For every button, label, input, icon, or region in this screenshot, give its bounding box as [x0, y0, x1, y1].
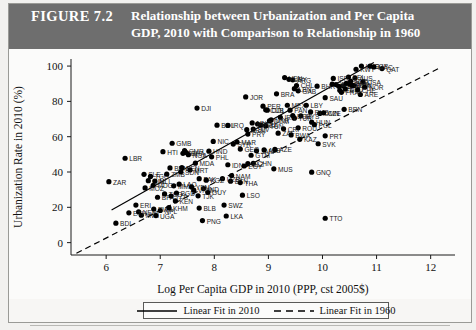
scatter-point-marker — [148, 174, 153, 179]
scatter-point-label: ZAR — [113, 179, 126, 186]
scatter-point: SAU — [323, 95, 344, 102]
scatter-point-marker — [142, 185, 147, 190]
y-axis-tick-label: 80 — [52, 95, 64, 107]
scatter-point-marker — [323, 95, 328, 100]
scatter-point-label: AZE — [279, 146, 292, 153]
x-axis-tick-label: 12 — [425, 261, 436, 273]
scatter-point: EGY — [241, 163, 262, 170]
scatter-point-marker — [271, 166, 276, 171]
y-axis-tick-label: 20 — [52, 201, 64, 213]
scatter-point: SWZ — [221, 202, 242, 209]
scatter-point: GTM — [249, 152, 270, 159]
figure-container: FIGURE 7.2 Relationship between Urbaniza… — [0, 0, 476, 330]
scatter-point-label: LSO — [247, 192, 260, 199]
scatter-point-marker — [153, 213, 158, 218]
scatter-point-marker — [178, 169, 183, 174]
scatter-point-marker — [355, 87, 360, 92]
scatter-point-marker — [285, 103, 290, 108]
scatter-point-label: UZB — [227, 176, 241, 183]
scatter-point-label: SVK — [322, 141, 336, 148]
scatter-point-marker — [241, 163, 246, 168]
scatter-point-label: KAZ — [304, 136, 317, 143]
scatter-point-label: MDG — [157, 182, 172, 189]
scatter-point: LSO — [240, 192, 260, 199]
scatter-point-marker — [197, 176, 202, 181]
x-axis-tick-label: 7 — [157, 261, 163, 273]
scatter-point: CUB — [263, 107, 284, 114]
scatter-point-marker — [206, 149, 211, 154]
scatter-point-marker — [151, 206, 156, 211]
scatter-point-label: PNG — [207, 218, 221, 225]
scatter-point-label: HND — [213, 148, 228, 155]
scatter-point-marker — [126, 210, 131, 215]
scatter-point-label: HTI — [167, 149, 178, 156]
scatter-point-marker — [244, 127, 249, 132]
scatter-point-label: MAC — [378, 64, 393, 71]
scatter-point-label: ISR — [338, 75, 349, 82]
scatter-point-marker — [353, 67, 358, 72]
scatter-point-marker — [225, 123, 230, 128]
legend-entry: Linear Fit in 1960 — [273, 305, 396, 316]
scatter-point-marker — [197, 205, 202, 210]
scatter-point: PRT — [323, 133, 343, 140]
scatter-point-marker — [292, 86, 297, 91]
scatter-point-label: CUB — [270, 107, 285, 114]
scatter-point-marker — [321, 110, 326, 115]
scatter-point: BRA — [274, 91, 295, 98]
scatter-point-marker — [261, 147, 266, 152]
scatter-point-marker — [330, 81, 335, 86]
figure-bottom-rule — [30, 325, 450, 326]
scatter-point-label: SAU — [329, 95, 343, 102]
scatter-point-marker — [151, 183, 156, 188]
scatter-point-label: NIC — [217, 138, 229, 145]
figure-title: Relationship between Urbanization and Pe… — [131, 7, 461, 41]
scatter-point-marker — [184, 150, 189, 155]
data-points-layer: BDIZARLBRERINERMWIETHSLEGINMOZTGOMLIRWAU… — [106, 63, 399, 227]
scatter-point-label: GMB — [176, 140, 192, 147]
scatter-point-label: KGZ — [210, 177, 224, 184]
scatter-point-label: EGY — [248, 163, 263, 170]
legend-solid-line-icon — [136, 307, 178, 315]
chart-legend: Linear Fit in 2010Linear Fit in 1960 — [143, 302, 389, 319]
scatter-point-marker — [297, 137, 302, 142]
scatter-point: LBN — [292, 86, 312, 93]
scatter-point-marker — [343, 86, 348, 91]
scatter-point-label: GHA — [190, 150, 205, 157]
scatter-point-marker — [281, 126, 286, 131]
scatter-point-label: MDA — [200, 160, 215, 167]
scatter-point-marker — [238, 146, 243, 151]
scatter-point: KAZ — [297, 136, 317, 143]
figure-title-line-1: Relationship between Urbanization and Pe… — [131, 8, 414, 23]
scatter-point-marker — [195, 193, 200, 198]
scatter-point-marker — [133, 202, 138, 207]
scatter-point: HND — [206, 148, 227, 155]
scatter-point-marker — [204, 178, 209, 183]
scatter-point-marker — [234, 139, 239, 144]
scatter-point: ETH — [126, 210, 146, 217]
scatter-point: ISR — [331, 75, 349, 82]
scatter-point-marker — [211, 139, 216, 144]
y-axis-tick-label: 0 — [58, 237, 64, 249]
x-axis-tick-label: 8 — [212, 261, 218, 273]
scatter-point-marker — [272, 147, 277, 152]
y-axis-tick-label: 60 — [52, 131, 64, 143]
scatter-point-marker — [173, 198, 178, 203]
scatter-point-marker — [342, 107, 347, 112]
legend-dashed-line-icon — [273, 307, 315, 315]
scatter-point: GNQ — [309, 169, 331, 177]
legend-entry-label: Linear Fit in 1960 — [320, 305, 396, 316]
scatter-point-label: KEN — [180, 198, 194, 205]
scatter-point: LBR — [122, 155, 142, 162]
scatter-point-label: PAN — [294, 107, 307, 114]
scatter-point: BRN — [342, 106, 363, 113]
scatter-point-marker — [167, 165, 172, 170]
scatter-point-marker — [214, 123, 219, 128]
scatter-point-marker — [287, 108, 292, 113]
scatter-point-marker — [164, 172, 169, 177]
scatter-point-marker — [309, 120, 314, 125]
scatter-point: VEN — [282, 75, 303, 82]
scatter-point: JOR — [243, 94, 263, 101]
scatter-point-label: BLB — [203, 205, 216, 212]
scatter-point-label: GNQ — [316, 169, 331, 177]
scatter-point: BDI — [113, 220, 131, 227]
